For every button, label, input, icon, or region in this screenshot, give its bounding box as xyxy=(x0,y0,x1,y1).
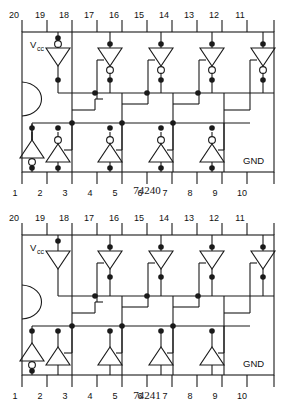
gate-inverter-pin15 xyxy=(149,48,173,66)
pin-label-top-4: 16 xyxy=(109,213,119,223)
pin-label-top-5: 15 xyxy=(134,213,144,223)
bubble-pin15-output xyxy=(158,67,165,74)
gate-buffer-pin13 xyxy=(200,251,224,269)
schematic-74240: 20 19 18 17 16 15 14 13 12 11 1 2 3 4 5 … xyxy=(0,0,294,202)
gate-inverter-pin11 xyxy=(251,48,275,66)
bubble-pin1-output xyxy=(29,159,36,166)
bubble-pin13-output xyxy=(209,67,216,74)
pin-label-top-2: 18 xyxy=(59,213,69,223)
gate-buffer-pin2 xyxy=(46,347,70,365)
pin-label-top-1: 19 xyxy=(35,213,45,223)
gate-inverter-pin19 xyxy=(46,48,70,66)
bubble-pin1-output xyxy=(29,362,36,369)
gate-inverter-pin1 xyxy=(20,343,44,361)
caption-74240: 74240 xyxy=(0,184,294,196)
bubble-pin8-input xyxy=(209,137,216,144)
vcc-label: V xyxy=(30,39,37,50)
pin-label-top-1: 19 xyxy=(35,10,45,20)
gate-buffer-pin11 xyxy=(251,251,275,269)
pin-label-top-0: 20 xyxy=(9,10,19,20)
gate-buffer-pin17 xyxy=(98,251,122,269)
ic-diagram-74241: 20 19 18 17 16 15 14 13 12 11 1 2 3 4 5 … xyxy=(0,203,294,405)
caption-74241: 74241 xyxy=(0,389,294,401)
ic-diagram-74240: 20 19 18 17 16 15 14 13 12 11 1 2 3 4 5 … xyxy=(0,0,294,202)
pin-label-top-6: 14 xyxy=(159,10,169,20)
gate-buffer-pin4 xyxy=(98,347,122,365)
gate-buffer-pin6 xyxy=(149,347,173,365)
bubble-pin2-input xyxy=(55,137,62,144)
vcc-label: V xyxy=(30,242,37,253)
pin-label-top-9: 11 xyxy=(235,213,244,223)
top-pin-leads xyxy=(22,20,274,32)
gate-inverter-pin6 xyxy=(149,144,173,162)
pin-label-top-5: 15 xyxy=(134,10,144,20)
pin-label-top-9: 11 xyxy=(235,10,244,20)
gate-inverter-pin13 xyxy=(200,48,224,66)
gnd-label: GND xyxy=(243,358,264,369)
gate-buffer-pin8 xyxy=(200,347,224,365)
bottom-pin-leads xyxy=(22,172,274,184)
bubble-pin17-output xyxy=(107,67,114,74)
pin-label-top-0: 20 xyxy=(9,213,19,223)
pin-label-top-8: 12 xyxy=(209,213,219,223)
pin-label-top-7: 13 xyxy=(184,10,194,20)
pin-label-top-4: 16 xyxy=(109,10,119,20)
datasheet-pinout-sheet: 20 19 18 17 16 15 14 13 12 11 1 2 3 4 5 … xyxy=(0,0,294,405)
gate-inverter-pin4 xyxy=(98,144,122,162)
pin-label-top-7: 13 xyxy=(184,213,194,223)
top-pin-leads xyxy=(22,223,274,235)
pin-label-top-8: 12 xyxy=(209,10,219,20)
pin-label-top-3: 17 xyxy=(84,10,94,20)
package-notch-icon xyxy=(22,82,42,116)
gate-inverter-pin2 xyxy=(46,144,70,162)
pin-label-top-2: 18 xyxy=(59,10,69,20)
package-notch-icon xyxy=(22,285,42,319)
gate-inverter-pin17 xyxy=(98,48,122,66)
bubble-pin6-input xyxy=(158,137,165,144)
bubble-pin11-output xyxy=(260,67,267,74)
vcc-subscript: cc xyxy=(37,45,45,52)
gate-inverter-pin1 xyxy=(20,140,44,158)
gate-buffer-pin19 xyxy=(46,251,70,269)
vcc-subscript: cc xyxy=(37,248,45,255)
pin-label-top-3: 17 xyxy=(84,213,94,223)
gate-inverter-pin8 xyxy=(200,144,224,162)
bubble-pin19-input xyxy=(55,41,62,48)
gnd-label: GND xyxy=(243,155,264,166)
bubble-pin4-input xyxy=(107,137,114,144)
bottom-pin-leads xyxy=(22,375,274,387)
pin-label-top-6: 14 xyxy=(159,213,169,223)
gate-buffer-pin15 xyxy=(149,251,173,269)
schematic-74241: 20 19 18 17 16 15 14 13 12 11 1 2 3 4 5 … xyxy=(0,203,294,405)
